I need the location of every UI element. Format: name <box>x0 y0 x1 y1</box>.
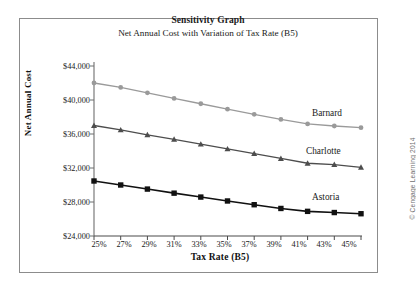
x-axis-ticks <box>94 236 361 240</box>
data-point <box>252 202 257 207</box>
data-point <box>279 117 284 122</box>
data-point <box>91 178 96 183</box>
data-point <box>172 96 177 101</box>
data-point <box>145 186 150 191</box>
copyright-notice: © Cengage Learning 2014 <box>409 124 416 234</box>
data-point <box>118 182 123 187</box>
data-point <box>358 211 363 216</box>
y-axis-ticks <box>90 66 94 236</box>
data-point <box>359 125 364 130</box>
data-point <box>332 210 337 215</box>
data-point <box>92 81 97 86</box>
data-point <box>171 190 176 195</box>
series-label-astoria: Astoria <box>312 192 339 202</box>
data-point <box>225 198 230 203</box>
data-point <box>305 209 310 214</box>
series-label-charlotte: Charlotte <box>306 146 341 156</box>
series-label-barnard: Barnard <box>312 108 342 118</box>
data-point <box>278 206 283 211</box>
data-point <box>225 107 230 112</box>
plot-area <box>0 0 416 297</box>
figure-canvas: Sensitivity Graph Net Annual Cost with V… <box>0 0 416 297</box>
data-point <box>305 122 310 127</box>
data-point <box>118 85 123 90</box>
data-point <box>198 101 203 106</box>
series-barnard <box>92 81 364 131</box>
data-point <box>252 112 257 117</box>
data-point <box>198 194 203 199</box>
series-line <box>94 83 361 128</box>
data-point <box>145 90 150 95</box>
data-point <box>332 124 337 129</box>
